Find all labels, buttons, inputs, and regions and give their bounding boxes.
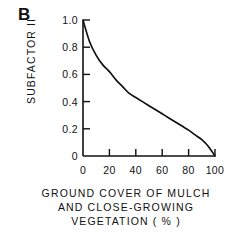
y-tick-label: 1.0: [36, 14, 78, 26]
x-axis-caption: GROUND COVER OF MULCH AND CLOSE-GROWING …: [0, 186, 252, 228]
y-axis-ticks: [83, 20, 90, 129]
caption-line-1: GROUND COVER OF MULCH: [0, 186, 252, 200]
x-tick-label: 100: [206, 164, 225, 176]
y-tick-label: 0.6: [36, 68, 78, 80]
y-tick-label: 0.8: [36, 41, 78, 53]
y-tick-label: 0: [36, 150, 78, 162]
x-tick-label: 60: [156, 164, 168, 176]
x-tick-label: 80: [182, 164, 194, 176]
data-curve: [83, 20, 215, 156]
x-tick-label: 40: [130, 164, 142, 176]
x-tick-label: 0: [80, 164, 86, 176]
x-tick-label: 20: [103, 164, 115, 176]
caption-line-2: AND CLOSE-GROWING: [0, 200, 252, 214]
x-axis-ticks: [109, 149, 215, 156]
y-tick-label: 0.4: [36, 96, 78, 108]
figure-panel-b: B SUBFACTOR II 00.20.40.60.81.0 02040608…: [0, 0, 252, 242]
caption-line-3: VEGETATION ( % ): [0, 214, 252, 228]
y-tick-label: 0.2: [36, 123, 78, 135]
